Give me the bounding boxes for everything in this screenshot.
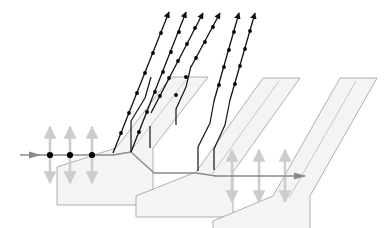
slab-3-inner-edge bbox=[289, 81, 356, 198]
reflected-ray-3-dot bbox=[185, 42, 189, 46]
reflected-ray-1-dot bbox=[119, 131, 123, 135]
reflected-ray-3-dot bbox=[167, 76, 171, 80]
reflected-ray-2-dot bbox=[177, 30, 181, 34]
reflected-ray-4-dot bbox=[174, 93, 178, 97]
reflected-ray-1-dot bbox=[159, 31, 163, 35]
reflected-ray-5-dot bbox=[227, 48, 231, 52]
reflected-ray-5-line bbox=[214, 13, 239, 101]
slab-2-inner-edge bbox=[212, 81, 279, 174]
polarization-dot-in-1 bbox=[47, 152, 53, 158]
reflected-ray-1-dot bbox=[135, 91, 139, 95]
reflected-ray-4-dot bbox=[211, 25, 215, 29]
reflected-ray-6 bbox=[230, 13, 255, 100]
reflected-ray-1-dot bbox=[151, 51, 155, 55]
reflected-ray-1-dot bbox=[143, 71, 147, 75]
reflected-ray-2-dot bbox=[137, 130, 141, 134]
reflected-ray-3-dot bbox=[176, 59, 180, 63]
reflected-ray-5 bbox=[214, 13, 239, 101]
reflected-ray-2-dot bbox=[153, 90, 157, 94]
reflected-ray-2-dot bbox=[169, 50, 173, 54]
reflected-ray-4-dot bbox=[203, 40, 207, 44]
reflected-ray-1-dot bbox=[127, 111, 131, 115]
polarization-dot-in-2 bbox=[67, 152, 73, 158]
reflected-ray-5-dot bbox=[232, 30, 236, 34]
reflected-ray-5-dot bbox=[222, 65, 226, 69]
reflected-ray-3-dot bbox=[193, 26, 197, 30]
reflected-ray-2-dot bbox=[161, 70, 165, 74]
slab-group bbox=[57, 77, 377, 228]
reflected-ray-3-dot bbox=[158, 94, 162, 98]
reflected-ray-6-line bbox=[230, 13, 255, 100]
reflected-ray-6-dot bbox=[238, 64, 242, 68]
reflected-ray-6-dot bbox=[248, 29, 252, 33]
reflected-ray-4-dot bbox=[184, 75, 188, 79]
reflected-ray-2-dot bbox=[145, 110, 149, 114]
reflected-ray-6-dot bbox=[243, 47, 247, 51]
reflected-ray-5-dot bbox=[217, 83, 221, 87]
optics-diagram-figure bbox=[0, 0, 387, 228]
incident-beam-arrowhead bbox=[29, 152, 41, 159]
optics-diagram-canvas bbox=[0, 0, 387, 228]
polarization-dot-in-3 bbox=[89, 152, 95, 158]
reflected-ray-4-dot bbox=[194, 56, 198, 60]
reflected-ray-6-dot bbox=[233, 82, 237, 86]
